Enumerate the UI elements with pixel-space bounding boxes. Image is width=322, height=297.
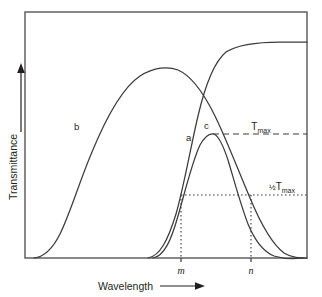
x-axis-title: Wavelength (98, 280, 153, 292)
curve-label-b: b (74, 121, 79, 132)
x-axis-arrow-icon (160, 282, 205, 290)
tmax-label-subscript: max (257, 127, 271, 134)
tick-label-n: n (249, 265, 254, 276)
curve-c (153, 134, 303, 259)
halfmax-label: ½Tmax (269, 181, 296, 194)
plot-frame (25, 12, 307, 258)
halfmax-label-subscript: max (282, 187, 296, 194)
y-axis-arrow-icon (17, 63, 25, 132)
curve-a (148, 42, 307, 258)
tick-label-m: m (177, 265, 184, 276)
curve-label-a: a (186, 132, 192, 143)
y-axis-title: Transmittance (7, 134, 19, 200)
transmittance-diagram: Transmittance b a c m n Tmax ½Tmax Wavel… (0, 0, 322, 297)
curve-label-c: c (204, 120, 209, 131)
tmax-label: Tmax (251, 121, 271, 134)
